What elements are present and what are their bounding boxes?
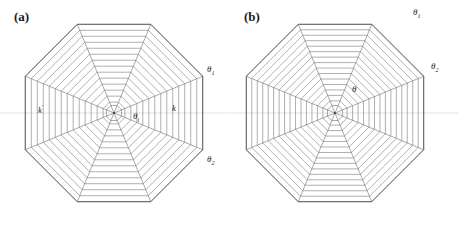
grid-chord (363, 141, 402, 180)
radial-spoke (114, 113, 151, 202)
radial-spoke (114, 76, 203, 113)
grid-chord (312, 90, 326, 104)
grid-chord (43, 142, 84, 183)
grid-chord (79, 78, 99, 98)
radial-spoke (335, 24, 372, 113)
grid-chord (143, 42, 184, 83)
grid-chord (97, 120, 107, 130)
grid-chord (340, 118, 347, 125)
radial-spoke (77, 24, 114, 113)
grid-chord (268, 141, 307, 180)
grid-chord (61, 135, 92, 166)
label-theta-2: θ2 (431, 62, 439, 73)
grid-chord (126, 125, 143, 142)
grid-chord (274, 138, 310, 174)
grid-chord (123, 122, 136, 135)
radial-spoke (246, 113, 335, 150)
grid-chord (354, 132, 380, 158)
radial-spoke (77, 113, 114, 202)
radial-spoke (335, 76, 424, 113)
grid-chord (49, 140, 87, 178)
label-theta-1: θ1 (413, 8, 421, 19)
grid-chord (128, 127, 148, 147)
grid-chord (363, 46, 402, 85)
grid-chord (91, 122, 104, 135)
grid-chord (133, 132, 160, 159)
label-theta-center: θi (133, 112, 139, 123)
grid-chord (347, 125, 364, 142)
grid-chord (356, 63, 386, 93)
grid-chord (123, 90, 136, 103)
center-point (113, 112, 115, 114)
grid-chord (37, 145, 82, 190)
grid-chord (128, 78, 148, 98)
grid-chord (360, 52, 396, 88)
octagon-grid-a (0, 0, 229, 225)
grid-chord (146, 145, 191, 190)
grid-chord (263, 41, 305, 83)
grid-chord (67, 66, 94, 93)
grid-chord (133, 66, 160, 93)
label-k-right: k (172, 104, 176, 113)
grid-chord (323, 101, 330, 108)
grid-chord (141, 48, 179, 86)
grid-chord (323, 118, 330, 125)
center-point (334, 112, 336, 114)
label-theta-2: θ2 (207, 155, 215, 166)
grid-chord (55, 54, 89, 88)
label-theta-1: θ1 (207, 65, 215, 76)
radial-spoke (114, 24, 151, 113)
radial-spoke (25, 113, 114, 150)
grid-chord (306, 125, 323, 142)
grid-chord (360, 138, 396, 174)
grid-chord (356, 134, 386, 164)
radial-spoke (114, 113, 203, 150)
grid-chord (369, 30, 418, 79)
grid-chord (141, 140, 179, 178)
figure-canvas: (a) θ1θ2kk′θi (b) θ1θ2θ (0, 0, 459, 225)
grid-chord (290, 132, 316, 158)
panel-b-tag: (b) (244, 10, 260, 23)
grid-chord (369, 147, 418, 196)
grid-chord (97, 96, 107, 106)
grid-chord (79, 127, 99, 147)
grid-chord (138, 54, 172, 88)
grid-chord (37, 36, 82, 81)
grid-chord (252, 30, 301, 79)
grid-chord (136, 60, 167, 91)
grid-chord (301, 127, 321, 147)
grid-chord (306, 84, 323, 101)
grid-chord (342, 95, 352, 105)
grid-chord (49, 48, 87, 86)
grid-chord (138, 137, 172, 171)
radial-spoke (246, 76, 335, 113)
panel-b: (b) θ1θ2θ (230, 0, 459, 225)
grid-chord (55, 137, 89, 171)
grid-chord (345, 123, 359, 137)
grid-chord (349, 127, 369, 147)
grid-chord (85, 125, 102, 142)
grid-chord (252, 147, 301, 196)
grid-chord (365, 143, 407, 185)
panel-a: (a) θ1θ2kk′θi (0, 0, 229, 225)
grid-chord (274, 52, 310, 88)
grid-chord (121, 120, 131, 130)
grid-chord (67, 132, 94, 159)
panel-a-tag: (a) (14, 10, 29, 23)
radial-spoke (335, 113, 372, 202)
grid-chord (268, 46, 307, 85)
grid-chord (301, 79, 321, 99)
grid-chord (143, 142, 184, 183)
grid-chord (126, 84, 143, 101)
radial-spoke (298, 113, 335, 202)
grid-chord (354, 68, 380, 94)
grid-chord (317, 95, 327, 105)
radial-spoke (298, 24, 335, 113)
grid-chord (146, 36, 191, 81)
grid-chord (43, 42, 84, 83)
grid-chord (61, 60, 92, 91)
grid-chord (285, 63, 315, 93)
grid-chord (317, 120, 327, 130)
grid-chord (342, 120, 352, 130)
grid-chord (312, 123, 326, 137)
